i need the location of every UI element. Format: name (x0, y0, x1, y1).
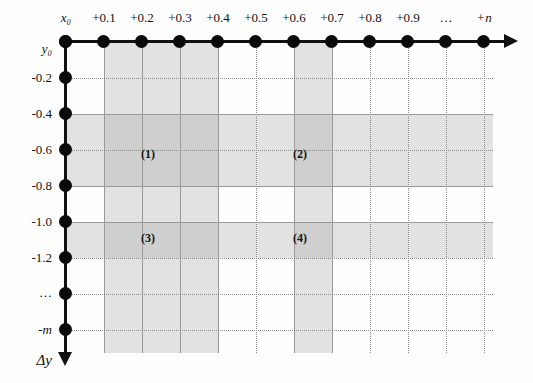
x-tick-dot-2 (135, 35, 148, 48)
x-tick-dot-4 (211, 35, 224, 48)
gridline-v-11 (484, 42, 485, 353)
region-2-label: (2) (293, 147, 307, 162)
y-tick-dot-8 (59, 323, 72, 336)
gridline-v-3 (180, 42, 181, 353)
y-axis-label-5: -1.0 (0, 214, 52, 230)
y-axis-label-4: -0.8 (0, 178, 52, 194)
y-tick-dot-5 (59, 215, 72, 228)
gridline-v-8 (370, 42, 371, 353)
x-tick-dot-7 (325, 35, 338, 48)
gridline-v-1 (104, 42, 105, 353)
y-axis-line (64, 42, 67, 354)
y-tick-dot-2 (59, 107, 72, 120)
y-tick-dot-6 (59, 251, 72, 264)
y-tick-dot-3 (59, 143, 72, 156)
y-tick-dot-4 (59, 179, 72, 192)
gridline-v-10 (446, 42, 447, 353)
gridline-h-4 (66, 186, 493, 187)
vertical-band-a (104, 42, 218, 353)
vertical-band-b (294, 42, 332, 353)
y-tick-dot-7 (59, 287, 72, 300)
x-tick-dot-5 (249, 35, 262, 48)
y-axis-label-0: y₀ (0, 41, 52, 57)
x-tick-dot-9 (401, 35, 414, 48)
diagram-canvas: x₀ +0.1 +0.2 +0.3 +0.4 +0.5 +0.6 +0.7 +0… (0, 0, 533, 383)
gridline-v-4 (218, 42, 219, 353)
y-tick-dot-1 (59, 71, 72, 84)
gridline-h-8 (66, 330, 493, 331)
y-axis-label-3: -0.6 (0, 142, 52, 158)
region-3-label: (3) (141, 231, 155, 246)
gridline-h-3 (66, 150, 493, 151)
x-axis-label-11: +n (456, 10, 512, 26)
y-axis-label-7: … (0, 285, 52, 301)
region-1-label: (1) (141, 147, 155, 162)
gridline-h-5 (66, 222, 493, 223)
gridline-h-7 (66, 294, 493, 295)
x-tick-dot-1 (97, 35, 110, 48)
x-tick-dot-6 (287, 35, 300, 48)
y-axis-label-8: -m (0, 322, 52, 338)
gridline-v-9 (408, 42, 409, 353)
plot-area (66, 42, 493, 353)
horizontal-band-b (66, 222, 493, 258)
gridline-v-6 (294, 42, 295, 353)
y-axis-label-6: -1.2 (0, 250, 52, 266)
y-axis-label-2: -0.4 (0, 106, 52, 122)
x-axis-arrow-icon (504, 34, 518, 48)
region-4-label: (4) (293, 231, 307, 246)
y-axis-label-1: -0.2 (0, 70, 52, 86)
gridline-h-6 (66, 258, 493, 259)
gridline-h-1 (66, 78, 493, 79)
y-axis-increment-label: Δy (0, 352, 52, 369)
x-tick-dot-3 (173, 35, 186, 48)
y-tick-dot-0 (59, 35, 72, 48)
gridline-v-2 (142, 42, 143, 353)
gridline-v-5 (256, 42, 257, 353)
x-tick-dot-11 (477, 35, 490, 48)
y-axis-arrow-icon (58, 352, 72, 366)
gridline-h-2 (66, 114, 493, 115)
gridline-v-7 (332, 42, 333, 353)
x-tick-dot-8 (363, 35, 376, 48)
x-tick-dot-10 (439, 35, 452, 48)
